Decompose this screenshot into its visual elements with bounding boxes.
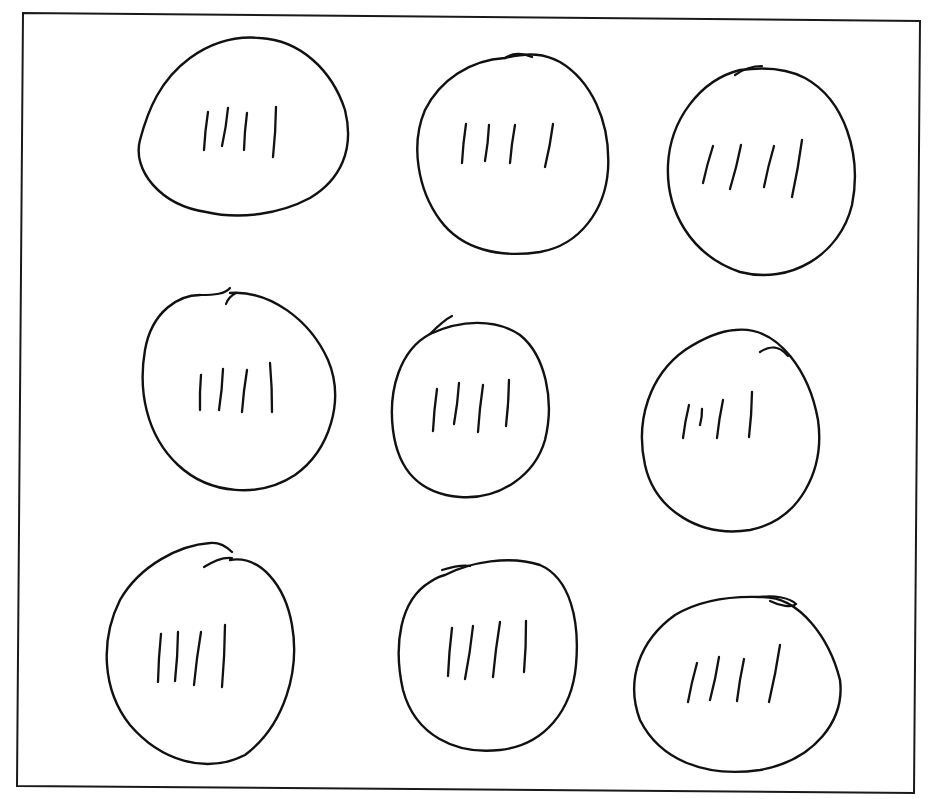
tally-mark [222,108,228,146]
tally-group-r1-c2 [417,54,608,254]
tally-group-r2-c2 [392,316,549,497]
tally-mark [204,112,208,150]
tally-mark [493,622,500,677]
hand-drawn-circle [107,543,294,764]
tally-mark [730,145,741,189]
tally-mark [510,125,515,163]
tally-mark [175,632,178,681]
tally-mark [485,125,489,161]
tally-mark [465,626,473,679]
tally-mark [688,663,697,702]
circle-closing-stroke [204,558,232,567]
tally-mark [478,385,483,432]
circle-closing-stroke [200,288,236,304]
tally-mark [244,113,247,150]
tally-group-r1-c3 [668,66,855,275]
hand-drawn-circle [417,55,608,254]
tally-mark [524,621,526,672]
tally-illustration [0,0,935,799]
hand-drawn-circle [634,597,840,772]
tally-group-r3-c3 [634,596,840,771]
hand-drawn-circle [642,330,819,532]
tally-mark [433,389,437,431]
tally-groups [107,38,855,772]
tally-mark [792,140,802,197]
tally-mark [194,632,201,685]
tally-mark [222,625,225,687]
tally-mark [200,375,201,410]
tally-mark [273,107,276,157]
hand-drawn-circle [668,68,855,275]
tally-mark [749,392,752,437]
tally-group-r1-c1 [139,38,348,216]
tally-mark [683,405,689,438]
hand-drawn-circle [392,323,549,497]
hand-drawn-circle [399,560,577,750]
tally-mark [242,370,247,412]
tally-mark [454,383,459,424]
tally-mark [710,657,719,700]
tally-mark [764,146,774,187]
tally-mark [462,124,466,163]
tally-mark [219,369,223,410]
tally-mark [769,645,780,702]
tally-mark [158,634,161,682]
tally-mark [737,659,744,701]
tally-mark [545,124,553,167]
circle-closing-stroke [430,316,452,334]
tally-mark [448,628,452,676]
tally-mark [700,409,702,425]
tally-mark [703,146,713,183]
tally-group-r2-c3 [642,330,819,532]
picture-frame [17,13,920,793]
tally-mark [270,363,272,412]
tally-group-r3-c2 [399,560,577,750]
tally-mark [506,380,509,426]
hand-drawn-circle [143,293,335,490]
hand-drawn-circle [139,38,348,216]
tally-group-r3-c1 [107,543,294,764]
tally-group-r2-c1 [143,288,335,490]
tally-mark [717,400,723,438]
